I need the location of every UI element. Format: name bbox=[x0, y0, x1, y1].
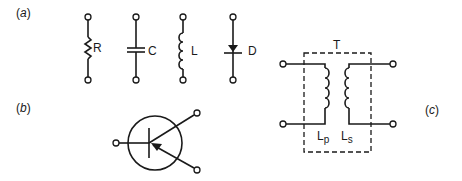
terminal bbox=[85, 77, 91, 83]
transistor-symbol bbox=[113, 110, 200, 173]
terminal bbox=[180, 77, 186, 83]
secondary-terminal-bottom bbox=[390, 121, 396, 127]
terminal bbox=[230, 14, 236, 20]
terminal bbox=[180, 14, 186, 20]
primary-terminal-top bbox=[280, 61, 286, 67]
diode-label: D bbox=[248, 44, 257, 58]
diode-arrow-icon bbox=[228, 45, 238, 52]
terminal bbox=[133, 14, 139, 20]
terminal bbox=[230, 77, 236, 83]
inductor-label: L bbox=[191, 44, 198, 58]
panel-a-label: (a) bbox=[16, 6, 31, 20]
circuit-symbols-diagram: (a) (b) (c) R C L D bbox=[0, 0, 462, 181]
panel-c-label: (c) bbox=[425, 103, 439, 117]
transformer-symbol: T Lp Ls bbox=[280, 38, 396, 152]
transformer-core-box bbox=[304, 53, 371, 152]
collector-terminal bbox=[194, 110, 200, 116]
terminal bbox=[85, 14, 91, 20]
emitter-terminal bbox=[194, 167, 200, 173]
diode-symbol: D bbox=[224, 14, 257, 83]
panel-b-label: (b) bbox=[16, 101, 31, 115]
secondary-coil-label: Ls bbox=[341, 129, 353, 145]
primary-coil-label: Lp bbox=[317, 129, 330, 145]
primary-terminal-bottom bbox=[280, 121, 286, 127]
secondary-terminal-top bbox=[390, 61, 396, 67]
capacitor-symbol: C bbox=[127, 14, 157, 83]
resistor-label: R bbox=[93, 41, 102, 55]
base-terminal bbox=[113, 140, 119, 146]
inductor-symbol: L bbox=[179, 14, 198, 83]
resistor-symbol: R bbox=[85, 14, 102, 83]
transformer-label: T bbox=[333, 38, 341, 52]
terminal bbox=[133, 77, 139, 83]
capacitor-label: C bbox=[148, 44, 157, 58]
